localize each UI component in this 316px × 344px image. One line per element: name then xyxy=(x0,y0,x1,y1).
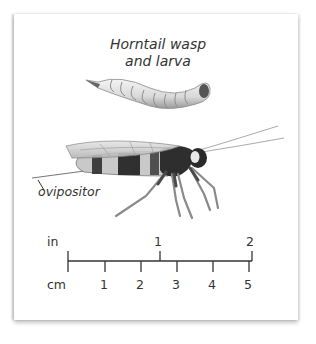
cm-unit-label: cm xyxy=(47,277,66,292)
inch-tick-label-2: 2 xyxy=(246,234,254,249)
inch-tick-label-1: 1 xyxy=(154,234,162,249)
inch-unit-label: in xyxy=(47,234,58,249)
wasp-icon xyxy=(32,126,284,218)
larva-icon xyxy=(86,79,210,108)
cm-tick-label-5: 5 xyxy=(244,277,252,292)
ovipositor-label: ovipositor xyxy=(38,184,100,199)
cm-tick-label-2: 2 xyxy=(136,277,144,292)
cm-tick-label-3: 3 xyxy=(172,277,180,292)
illustration xyxy=(0,0,316,344)
cm-tick-label-4: 4 xyxy=(208,277,216,292)
scale-bar xyxy=(68,251,252,272)
cm-tick-label-1: 1 xyxy=(100,277,108,292)
